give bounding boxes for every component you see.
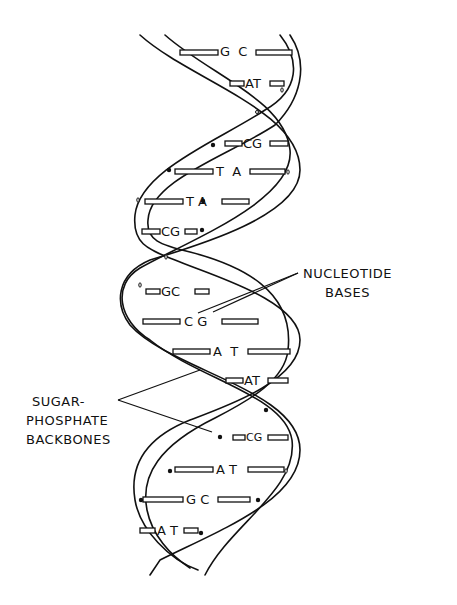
base-letter: A <box>232 164 241 179</box>
base-pair-6: CG <box>161 225 180 238</box>
sugar-phosphate-backbones-label: SUGAR- PHOSPHATE BACKBONES <box>26 392 111 449</box>
base-pair-1: G C <box>220 45 247 58</box>
base-letter: T <box>253 76 261 91</box>
base-pair-10: AT <box>244 374 260 387</box>
base-letter: T <box>186 194 194 209</box>
base-letter: G <box>170 224 180 239</box>
base-letter: T <box>252 373 260 388</box>
base-letter: T <box>216 164 224 179</box>
base-letter: C <box>200 492 209 507</box>
base-letter: A <box>244 373 252 388</box>
base-pair-4: T A <box>216 165 241 178</box>
nucleotide-bases-label: NUCLEOTIDE BASES <box>303 264 392 302</box>
base-pair-14: A T <box>157 524 178 537</box>
nucleotide-label-line1: NUCLEOTIDE <box>303 264 392 283</box>
base-pair-12: A T <box>216 463 237 476</box>
base-pair-13: G C <box>186 493 209 506</box>
base-letter: C <box>246 431 254 444</box>
base-letter: G <box>220 44 230 59</box>
base-letter: C <box>171 284 180 299</box>
base-letter: T <box>229 462 237 477</box>
base-letter: T <box>230 344 238 359</box>
base-pair-8: C G <box>184 315 207 328</box>
base-letter: C <box>161 224 170 239</box>
base-letter: A <box>157 523 166 538</box>
base-pair-3: CG <box>243 137 262 150</box>
base-letter: G <box>197 314 207 329</box>
base-letter: C <box>238 44 247 59</box>
base-letter: T <box>170 523 178 538</box>
base-letter: A <box>198 194 207 209</box>
base-letter: G <box>252 136 262 151</box>
nucleotide-label-line2: BASES <box>303 283 392 302</box>
base-letter: G <box>161 284 171 299</box>
base-letter: A <box>213 344 222 359</box>
base-letter: A <box>216 462 225 477</box>
sugar-label-line2: PHOSPHATE <box>26 411 111 430</box>
base-letter: C <box>243 136 252 151</box>
base-letter: G <box>254 431 263 444</box>
base-letter: G <box>186 492 196 507</box>
base-pair-11: CG <box>246 431 262 444</box>
base-pair-9: A T <box>213 345 238 358</box>
dna-helix-drawing <box>0 0 457 605</box>
base-pair-2: AT <box>245 77 261 90</box>
sugar-label-line1: SUGAR- <box>26 392 111 411</box>
base-pair-5: T A <box>186 195 207 208</box>
base-pair-7: GC <box>161 285 180 298</box>
base-letter: C <box>184 314 193 329</box>
sugar-label-line3: BACKBONES <box>26 430 111 449</box>
backbone-strand-a <box>120 35 300 575</box>
base-letter: A <box>245 76 253 91</box>
